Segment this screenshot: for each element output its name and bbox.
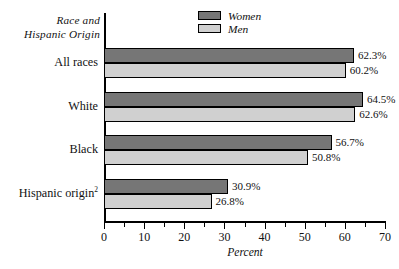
bar-value-label: 50.8%: [312, 150, 340, 165]
plot-area: 62.3%60.2%64.5%62.6%56.7%50.8%30.9%26.8%: [104, 45, 385, 222]
x-tick-minor: [204, 223, 205, 227]
chart-legend: Women Men: [198, 9, 261, 35]
x-tick-label: 10: [129, 230, 159, 245]
dark-gray-swatch-icon: [198, 11, 221, 20]
x-tick-minor: [365, 223, 366, 227]
y-axis-title-line-1: Race and: [8, 13, 100, 27]
x-tick-label: 60: [330, 230, 360, 245]
bar-women-hispanic-origin: [104, 179, 228, 194]
bar-value-label: 62.6%: [359, 107, 387, 122]
bar-men-white: [104, 107, 355, 122]
footnote-marker: 2: [94, 185, 98, 194]
bar-group: 30.9%26.8%: [104, 179, 385, 209]
y-axis-title-line-2: Hispanic Origin: [8, 27, 100, 41]
legend-label-men: Men: [228, 23, 248, 35]
x-axis-title: Percent: [104, 246, 386, 259]
bar-value-label: 30.9%: [232, 179, 260, 194]
bar-group: 56.7%50.8%: [104, 135, 385, 165]
bar-men-all-races: [104, 63, 346, 78]
bar-value-label: 64.5%: [367, 92, 395, 107]
x-tick-minor: [325, 223, 326, 227]
x-tick-major: [385, 223, 386, 229]
x-tick-major: [345, 223, 346, 229]
category-label-black: Black: [0, 142, 98, 157]
x-tick-label: 50: [290, 230, 320, 245]
bar-value-label: 26.8%: [216, 194, 244, 209]
legend-entry-women: Women: [198, 9, 261, 22]
category-label-all-races: All races: [0, 55, 98, 70]
x-tick-major: [224, 223, 225, 229]
bar-women-black: [104, 135, 332, 150]
x-tick-label: 0: [89, 230, 119, 245]
bar-women-all-races: [104, 48, 354, 63]
x-tick-label: 40: [250, 230, 280, 245]
category-label-hispanic-origin: Hispanic origin2: [0, 186, 98, 201]
x-tick-minor: [245, 223, 246, 227]
x-tick-major: [265, 223, 266, 229]
legend-entry-men: Men: [198, 22, 261, 35]
bar-chart-figure: Race and Hispanic Origin Women Men 62.3%…: [0, 0, 399, 269]
x-tick-minor: [285, 223, 286, 227]
y-axis-title: Race and Hispanic Origin: [8, 13, 100, 41]
category-label-white: White: [0, 99, 98, 114]
light-gray-swatch-icon: [198, 24, 221, 33]
bar-women-white: [104, 92, 363, 107]
x-tick-major: [104, 223, 105, 229]
x-tick-label: 70: [370, 230, 399, 245]
x-tick-label: 30: [209, 230, 239, 245]
x-tick-minor: [124, 223, 125, 227]
bar-men-hispanic-origin: [104, 194, 212, 209]
bar-value-label: 62.3%: [358, 48, 386, 63]
bar-value-label: 60.2%: [350, 63, 378, 78]
x-tick-minor: [164, 223, 165, 227]
x-tick-label: 20: [169, 230, 199, 245]
bar-men-black: [104, 150, 308, 165]
bar-group: 64.5%62.6%: [104, 92, 385, 122]
bar-value-label: 56.7%: [336, 135, 364, 150]
bar-group: 62.3%60.2%: [104, 48, 385, 78]
legend-label-women: Women: [228, 10, 261, 22]
x-tick-major: [144, 223, 145, 229]
x-tick-major: [184, 223, 185, 229]
x-tick-major: [305, 223, 306, 229]
